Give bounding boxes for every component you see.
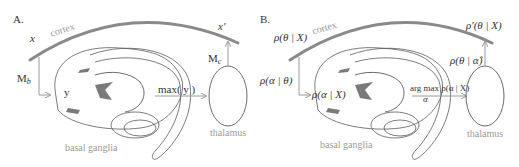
basal-ganglia-label: basal ganglia <box>320 140 372 150</box>
thalamus-shape <box>466 66 504 126</box>
y-label: y <box>64 87 70 98</box>
output-label: ρ′(θ | X) <box>466 20 502 31</box>
right-arrow-label: ρ(θ | α̂) <box>450 55 482 66</box>
mc-label: Mc <box>208 53 221 66</box>
panel-a: A. cortex x x′ Mb Mc y max( y ) basal ga… <box>0 0 259 167</box>
thalamus-shape <box>209 66 247 126</box>
input-label: ρ(θ | X) <box>274 32 307 43</box>
mb-label: Mb <box>17 73 31 86</box>
dark-region-3 <box>78 68 90 73</box>
thalamus-label: thalamus <box>210 128 246 138</box>
dark-region-2 <box>326 108 340 114</box>
panel-b: B. cortex ρ(θ | X) ρ′(θ | X) ρ(α | θ) ρ(… <box>260 0 519 167</box>
dark-region-3 <box>338 68 350 73</box>
argmax-sub-label: α <box>423 95 428 104</box>
dark-region-1 <box>95 82 113 100</box>
left-arrow-label: ρ(α | θ) <box>260 75 292 86</box>
panel-b-tag: B. <box>260 14 270 25</box>
left-arrow <box>299 57 310 95</box>
max-y-label: max( y ) <box>158 84 195 95</box>
input-x-label: x <box>30 33 35 44</box>
mb-arrow <box>39 57 50 95</box>
argmax-label: arg max ρ(α | X) <box>410 84 469 93</box>
dark-region-1 <box>355 82 373 100</box>
panel-a-tag: A. <box>13 14 24 25</box>
output-x-prime-label: x′ <box>218 21 225 32</box>
basal-ganglia-label: basal ganglia <box>65 143 117 153</box>
thalamus-label: thalamus <box>467 129 503 139</box>
dark-region-2 <box>66 108 80 114</box>
bg-label: ρ(α | X) <box>312 89 346 100</box>
